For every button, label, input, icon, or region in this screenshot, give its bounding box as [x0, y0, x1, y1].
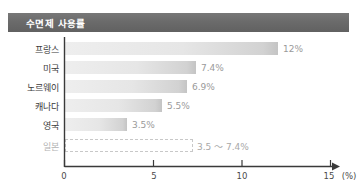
bar-segment — [65, 80, 187, 93]
bar-segment — [65, 61, 196, 74]
chart-row: 일본 3.5 ～ 7.4% — [0, 139, 357, 152]
x-axis-tick-label: 5 — [151, 171, 156, 181]
bar-value-label: 12% — [283, 44, 303, 54]
bar-value-label: 6.9% — [192, 82, 215, 92]
bar-segment — [65, 99, 162, 112]
bar-segment — [65, 118, 127, 131]
category-label: 영국 — [43, 118, 65, 131]
chart-row: 프랑스 12% — [0, 42, 357, 55]
x-axis-tick-label: 10 — [237, 171, 248, 181]
chart-axes — [0, 0, 357, 195]
category-label: 프랑스 — [35, 42, 65, 55]
x-axis-tick-label: 15 — [324, 171, 335, 181]
category-label: 캐나다 — [35, 99, 65, 112]
bar-value-label: 3.5% — [132, 120, 155, 130]
bar-value-label: 7.4% — [201, 63, 224, 73]
category-label: 미국 — [43, 61, 65, 74]
bar-value-label: 5.5% — [167, 101, 190, 111]
category-label: 노르웨이 — [27, 80, 65, 93]
bar-segment — [65, 42, 278, 55]
category-label: 일본 — [43, 139, 65, 152]
x-axis-tick-label: 0 — [61, 171, 66, 181]
chart-plot-area: 프랑스 12% 미국 7.4% 노르웨이 6.9% 캐나다 5.5% 영국 3.… — [0, 0, 357, 195]
bar-segment-dashed-range — [65, 139, 193, 152]
x-axis-arrow-icon — [332, 163, 340, 171]
chart-row: 미국 7.4% — [0, 61, 357, 74]
chart-row: 영국 3.5% — [0, 118, 357, 131]
chart-row: 노르웨이 6.9% — [0, 80, 357, 93]
x-axis-unit-label: (%) — [342, 171, 357, 181]
bar-value-label: 3.5 ～ 7.4% — [197, 139, 249, 152]
chart-row: 캐나다 5.5% — [0, 99, 357, 112]
